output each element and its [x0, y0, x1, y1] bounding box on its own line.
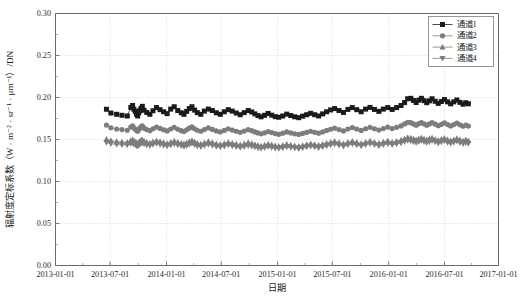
x-axis-title: 日期 — [268, 283, 286, 293]
x-tick-label: 2013-07-01 — [91, 270, 129, 279]
y-tick-label: 0.10 — [37, 177, 51, 186]
marker-circle — [385, 124, 390, 129]
marker-square — [104, 107, 109, 112]
marker-circle — [466, 123, 471, 128]
marker-triangle-down — [389, 142, 395, 148]
marker-square — [440, 22, 445, 27]
x-tick-label: 2016-07-01 — [425, 270, 463, 279]
marker-square — [119, 113, 124, 118]
marker-circle — [119, 127, 124, 132]
marker-square — [350, 105, 355, 110]
radiometric-calibration-chart: 0.000.050.100.150.200.250.302013-01-0120… — [0, 0, 527, 301]
marker-circle — [440, 33, 445, 38]
marker-square — [354, 107, 359, 112]
marker-circle — [350, 125, 355, 130]
marker-circle — [367, 125, 372, 130]
y-tick-label: 0.30 — [37, 9, 51, 18]
marker-square — [108, 111, 113, 116]
legend-label: 通道2 — [457, 30, 477, 40]
marker-circle — [394, 125, 399, 130]
plot-area — [103, 96, 471, 152]
marker-square — [376, 109, 381, 114]
y-tick-label: 0.25 — [37, 51, 51, 60]
marker-circle — [390, 126, 395, 131]
marker-square — [359, 109, 364, 114]
marker-circle — [332, 126, 337, 131]
marker-square — [466, 101, 471, 106]
y-tick-label: 0.05 — [37, 219, 51, 228]
x-tick-label: 2015-07-01 — [313, 270, 351, 279]
marker-triangle-down — [376, 144, 382, 150]
marker-square — [114, 112, 119, 117]
x-tick-label: 2017-01-01 — [479, 270, 517, 279]
marker-circle — [381, 126, 386, 131]
marker-circle — [359, 128, 364, 133]
marker-circle — [108, 125, 113, 130]
x-tick-label: 2014-01-01 — [147, 270, 185, 279]
legend-label: 通道4 — [457, 53, 478, 63]
y-axis-title: 辐射度定标系数（W · m⁻² · sr⁻¹ · μm⁻¹）/DN — [4, 50, 15, 228]
y-tick-label: 0.15 — [37, 135, 51, 144]
marker-square — [394, 105, 399, 110]
marker-square — [345, 107, 350, 112]
marker-square — [332, 106, 337, 111]
marker-circle — [345, 126, 350, 131]
marker-circle — [354, 126, 359, 131]
marker-square — [381, 107, 386, 112]
marker-square — [363, 107, 368, 112]
marker-square — [368, 105, 373, 110]
marker-square — [125, 113, 130, 118]
marker-circle — [363, 126, 368, 131]
chart-canvas: 0.000.050.100.150.200.250.302013-01-0120… — [0, 0, 527, 301]
legend-label: 通道1 — [457, 19, 477, 29]
marker-circle — [104, 122, 109, 127]
series-2 — [104, 120, 471, 137]
legend: 通道1通道2通道3通道4 — [429, 17, 494, 67]
marker-circle — [114, 126, 119, 131]
marker-circle — [372, 126, 377, 131]
marker-circle — [336, 127, 341, 132]
marker-square — [390, 107, 395, 112]
y-tick-label: 0.20 — [37, 93, 51, 102]
marker-square — [372, 107, 377, 112]
series-1 — [104, 96, 471, 120]
y-tick-label: 0.00 — [37, 261, 51, 270]
marker-square — [341, 110, 346, 115]
marker-square — [337, 108, 342, 113]
legend-label: 通道3 — [457, 42, 477, 52]
marker-circle — [341, 128, 346, 133]
x-tick-label: 2014-07-01 — [202, 270, 240, 279]
x-tick-label: 2015-01-01 — [259, 270, 297, 279]
marker-circle — [376, 127, 381, 132]
marker-square — [165, 111, 170, 116]
marker-triangle-down — [358, 144, 364, 150]
x-tick-label: 2013-01-01 — [36, 270, 74, 279]
x-tick-label: 2016-01-01 — [370, 270, 408, 279]
marker-square — [385, 105, 390, 110]
marker-triangle-down — [340, 144, 346, 150]
